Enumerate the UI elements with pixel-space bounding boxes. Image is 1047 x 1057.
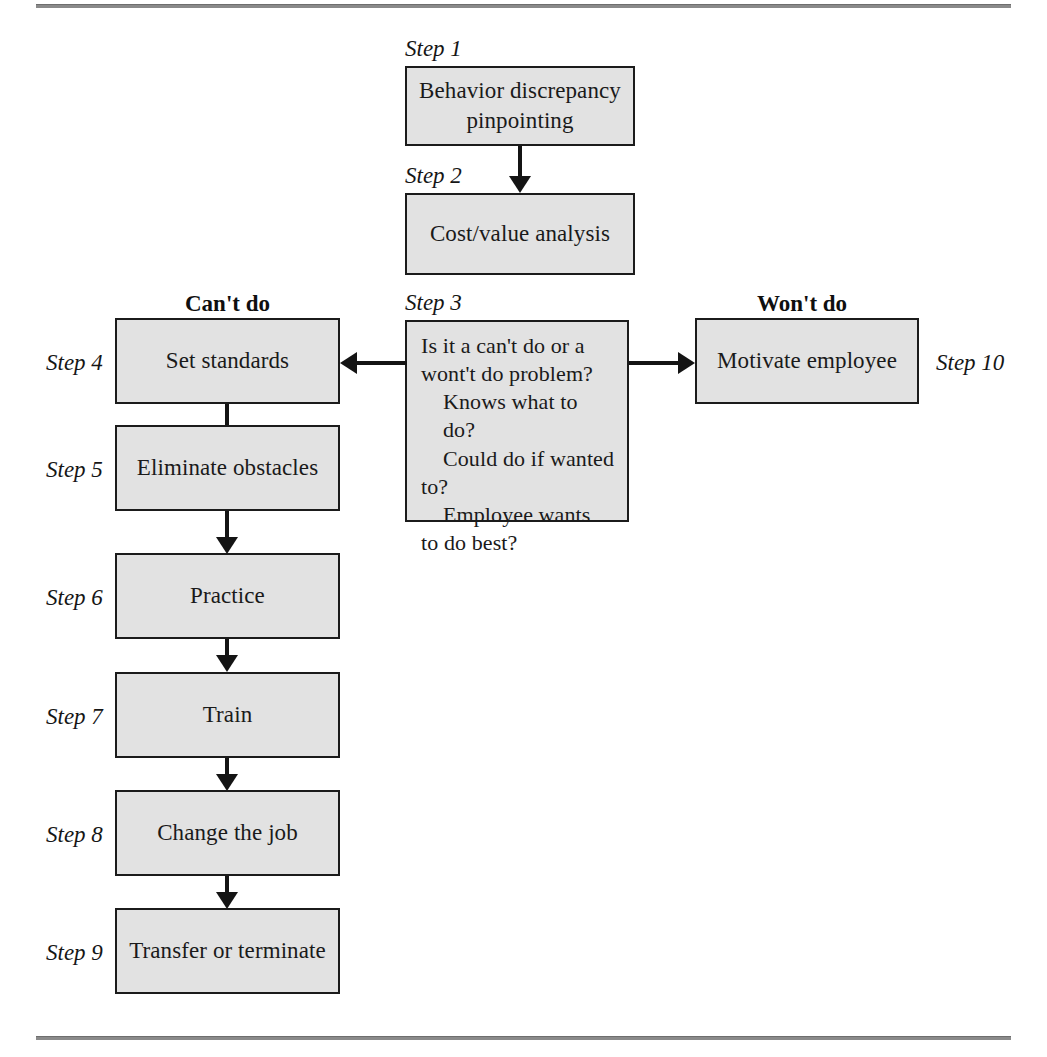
node-step3-line6: Employee wants	[421, 501, 615, 529]
step-label-step8: Step 8	[46, 822, 103, 848]
node-step10[interactable]: Motivate employee	[695, 318, 919, 404]
connector-step7-step8-arrowhead	[216, 774, 238, 791]
node-step5[interactable]: Eliminate obstacles	[115, 425, 340, 511]
step-label-step3: Step 3	[405, 290, 462, 316]
node-step3-line5: to?	[421, 473, 615, 501]
node-step8-text: Change the job	[117, 818, 338, 848]
node-step3-text: Is it a can't do or a wont't do problem?…	[421, 332, 615, 557]
top-divider-rule	[36, 4, 1011, 8]
node-step1-text: Behavior discrepancy pinpointing	[407, 76, 633, 136]
node-step6[interactable]: Practice	[115, 553, 340, 639]
node-step7[interactable]: Train	[115, 672, 340, 758]
node-step3-line1: Is it a can't do or a	[421, 332, 615, 360]
step-label-step7: Step 7	[46, 704, 103, 730]
node-step2-text: Cost/value analysis	[407, 219, 633, 249]
node-step3[interactable]: Is it a can't do or a wont't do problem?…	[405, 320, 629, 522]
connector-step1-step2-line	[518, 146, 522, 178]
step-label-step1: Step 1	[405, 36, 462, 62]
connector-step3-step4-line	[357, 361, 407, 365]
node-step3-line7: to do best?	[421, 529, 615, 557]
node-step3-line4: Could do if wanted	[421, 445, 615, 473]
connector-step3-step4-arrowhead	[340, 352, 357, 374]
step-label-step2: Step 2	[405, 163, 462, 189]
flowchart-page: Step 1 Behavior discrepancy pinpointing …	[0, 0, 1047, 1057]
node-step10-text: Motivate employee	[697, 346, 917, 376]
step-label-step5: Step 5	[46, 457, 103, 483]
node-step3-line3: Knows what to do?	[421, 388, 615, 444]
node-step3-line2: wont't do problem?	[421, 360, 615, 388]
node-step1[interactable]: Behavior discrepancy pinpointing	[405, 66, 635, 146]
connector-step1-step2-arrowhead	[509, 176, 531, 193]
connector-step5-step6-arrowhead	[216, 537, 238, 554]
node-step5-text: Eliminate obstacles	[117, 453, 338, 483]
column-header-wont-do: Won't do	[757, 291, 847, 317]
connector-step8-step9-arrowhead	[216, 892, 238, 909]
bottom-divider-rule	[36, 1036, 1011, 1040]
connector-step3-step10-arrowhead	[678, 352, 695, 374]
step-label-step4: Step 4	[46, 350, 103, 376]
column-header-cant-do: Can't do	[185, 291, 270, 317]
step-label-step10: Step 10	[936, 350, 1004, 376]
node-step8[interactable]: Change the job	[115, 790, 340, 876]
step-label-step9: Step 9	[46, 940, 103, 966]
node-step7-text: Train	[117, 700, 338, 730]
step-label-step6: Step 6	[46, 585, 103, 611]
node-step4[interactable]: Set standards	[115, 318, 340, 404]
connector-step6-step7-arrowhead	[216, 655, 238, 672]
node-step6-text: Practice	[117, 581, 338, 611]
node-step2[interactable]: Cost/value analysis	[405, 193, 635, 275]
node-step9[interactable]: Transfer or terminate	[115, 908, 340, 994]
node-step9-text: Transfer or terminate	[117, 936, 338, 966]
connector-step3-step10-line	[629, 361, 678, 365]
node-step4-text: Set standards	[117, 346, 338, 376]
